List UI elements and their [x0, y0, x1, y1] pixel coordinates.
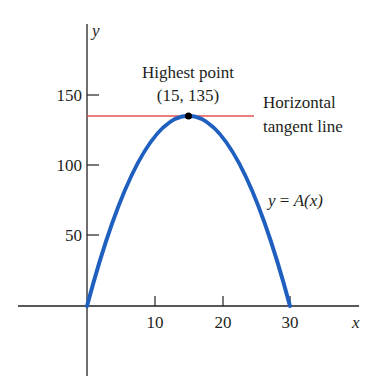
tangent-line-label-1: Horizontal: [263, 93, 336, 112]
parabola-chart: 10 20 30 50 100 150 y x Highest point (1…: [0, 0, 371, 392]
x-tick-label-20: 20: [215, 313, 232, 332]
curve-label-eq: =: [276, 191, 294, 210]
y-tick-label-100: 100: [57, 156, 83, 175]
x-tick-label-30: 30: [282, 313, 299, 332]
tangent-line-label-2: tangent line: [263, 117, 343, 136]
highest-point-marker: [185, 113, 192, 120]
curve-label: y = A(x): [266, 191, 323, 210]
highest-point-title: Highest point: [142, 63, 234, 82]
curve-label-fn: A(x): [293, 191, 324, 210]
curve-label-y: y: [266, 191, 276, 210]
y-axis-label: y: [90, 21, 100, 40]
x-axis-label: x: [351, 313, 360, 332]
curve-a-of-x: [87, 116, 290, 306]
highest-point-coords: (15, 135): [157, 86, 219, 105]
x-tick-label-10: 10: [147, 313, 164, 332]
y-tick-label-150: 150: [57, 86, 83, 105]
y-tick-label-50: 50: [65, 226, 82, 245]
